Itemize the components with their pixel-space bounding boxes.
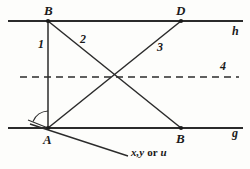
geometry-figure: B D A B h g 1 2 3 4 x,yoru bbox=[0, 0, 250, 169]
segment-label-1: 1 bbox=[38, 38, 44, 50]
angle-arc bbox=[33, 111, 48, 122]
point-label-A: A bbox=[43, 133, 52, 146]
segment-label-2: 2 bbox=[80, 33, 86, 45]
ray-annotation: x,yoru bbox=[131, 147, 167, 158]
vertex-dot-D bbox=[179, 19, 183, 23]
ray-annotation-alt: u bbox=[161, 146, 167, 158]
ray-annotation-conjunction: or bbox=[147, 146, 157, 158]
point-label-D: D bbox=[176, 4, 185, 17]
dashed-line-label-4: 4 bbox=[220, 60, 226, 72]
segment-label-3: 3 bbox=[157, 41, 163, 53]
line-label-g: g bbox=[232, 127, 238, 139]
ray-annotation-vars: x,y bbox=[131, 146, 144, 158]
vertex-dot-B-top bbox=[46, 19, 50, 23]
vertex-dot-B-bottom bbox=[179, 126, 183, 130]
point-label-B-top: B bbox=[44, 4, 53, 17]
point-label-B-bottom: B bbox=[176, 132, 185, 145]
figure-canvas bbox=[0, 0, 250, 169]
line-label-h: h bbox=[232, 25, 239, 37]
